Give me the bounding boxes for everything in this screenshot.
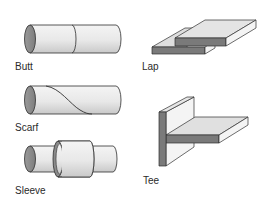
scarf-joint-figure [25,86,122,114]
sleeve-label: Sleeve [15,186,46,196]
lap-label: Lap [142,62,159,72]
tee-label: Tee [143,176,159,186]
tee-joint-figure [159,97,248,166]
butt-joint-figure [25,25,122,53]
joint-diagram [0,0,266,203]
scarf-label: Scarf [15,123,38,133]
sleeve-joint-figure [25,141,118,177]
lap-joint-figure [152,20,256,54]
butt-label: Butt [15,62,33,72]
